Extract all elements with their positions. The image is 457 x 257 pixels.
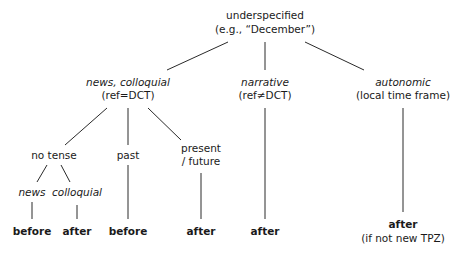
edge-no-tense-colloquial [61,165,70,182]
autonomic-node-ref: (local time frame) [356,89,450,101]
news-node: news [18,186,45,198]
news-colloquial-node-label: news, colloquial [86,76,170,88]
leaf-autonomic-after: after [389,218,418,230]
root-node-example: (e.g., “December”) [215,23,315,35]
past-node: past [117,149,140,161]
autonomic-node-label: autonomic [375,76,431,88]
leaf-autonomic-condition: (if not new TPZ) [361,232,445,244]
news-colloquial-node-ref: (ref=DCT) [101,89,154,101]
narrative-node-ref: (ref≠DCT) [238,89,291,101]
present-node: present [181,142,221,154]
edge-news-colloquial-no-tense [65,108,107,145]
leaf-past-before: before [109,225,148,237]
no-tense-node: no tense [31,149,77,161]
edge-root-autonomic [305,42,364,70]
leaf-news-before: before [13,225,52,237]
narrative-node-label: narrative [241,76,289,88]
colloquial-node: colloquial [52,186,102,198]
root-node-label: underspecified [226,9,304,21]
future-node: / future [182,155,221,167]
edge-news-colloquial-present-future [148,108,181,140]
leaf-narrative-after: after [251,225,280,237]
edge-no-tense-news [37,165,47,182]
decision-tree-diagram: underspecified (e.g., “December”) news, … [0,0,457,257]
leaf-colloquial-after: after [63,225,92,237]
edge-root-news-colloquial [167,42,228,70]
leaf-present-future-after: after [187,225,216,237]
